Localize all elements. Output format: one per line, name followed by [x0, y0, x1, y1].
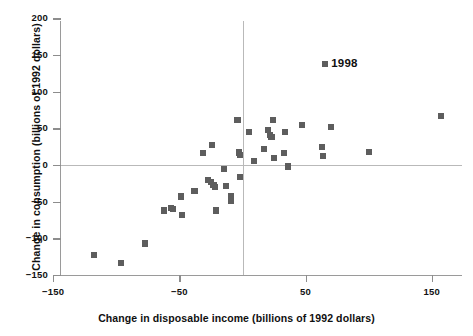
- x-tick-mark: [53, 275, 54, 282]
- data-point: [366, 149, 372, 155]
- x-tick-label: −50: [157, 286, 201, 297]
- data-point: [223, 183, 229, 189]
- data-point: [212, 184, 218, 190]
- data-point: [118, 260, 124, 266]
- data-point: [438, 113, 444, 119]
- data-point: [178, 193, 184, 199]
- data-point: [191, 188, 197, 194]
- data-point: [320, 153, 326, 159]
- x-tick-label: 150: [410, 286, 454, 297]
- data-point: [237, 152, 243, 158]
- data-point: [142, 240, 148, 246]
- legend-swatch-1998: [322, 61, 328, 67]
- data-point: [268, 134, 274, 140]
- data-point: [91, 252, 97, 258]
- gridline-y-zero: [60, 165, 462, 166]
- data-point: [328, 124, 334, 130]
- y-tick-mark: [53, 128, 61, 129]
- y-tick-label: 0: [8, 159, 48, 170]
- y-tick-mark: [53, 92, 61, 93]
- y-tick-label: 100: [8, 86, 48, 97]
- data-point: [237, 174, 243, 180]
- y-tick-label: 200: [8, 12, 48, 23]
- x-tick-label: 50: [284, 286, 328, 297]
- y-tick-mark: [53, 165, 61, 166]
- x-tick-label: −150: [31, 286, 75, 297]
- data-point: [270, 117, 276, 123]
- data-point: [285, 163, 291, 169]
- y-tick-label: −100: [8, 232, 48, 243]
- y-tick-mark: [53, 55, 61, 56]
- scatter-chart-figure: 200150100500−50−100−150 −150−5050150 199…: [0, 0, 473, 336]
- x-axis-line: [60, 275, 462, 276]
- y-axis-line: [60, 21, 61, 275]
- data-point: [261, 146, 267, 152]
- x-axis-title: Change in disposable income (billions of…: [0, 312, 473, 324]
- data-point: [200, 150, 206, 156]
- y-tick-mark: [53, 238, 61, 239]
- x-tick-mark: [432, 275, 433, 282]
- y-tick-label: −50: [8, 196, 48, 207]
- data-point: [228, 198, 234, 204]
- gridline-x-zero: [243, 21, 244, 275]
- data-point: [251, 158, 257, 164]
- data-point: [161, 207, 167, 213]
- data-point: [281, 150, 287, 156]
- data-point: [246, 129, 252, 135]
- data-point: [213, 207, 219, 213]
- data-point: [319, 144, 325, 150]
- y-tick-mark: [53, 202, 61, 203]
- data-point: [234, 117, 240, 123]
- x-tick-mark: [306, 275, 307, 282]
- data-point: [271, 155, 277, 161]
- y-axis-title: Change in consumption (billions of 1992 …: [30, 7, 42, 287]
- x-tick-mark: [179, 275, 180, 282]
- data-point: [299, 122, 305, 128]
- data-point: [179, 212, 185, 218]
- y-tick-label: 50: [8, 122, 48, 133]
- data-point: [221, 166, 227, 172]
- legend: 1998: [322, 58, 358, 70]
- data-point: [282, 129, 288, 135]
- legend-label-1998: 1998: [331, 58, 357, 70]
- y-tick-label: −150: [8, 269, 48, 280]
- y-tick-mark: [53, 18, 61, 19]
- data-point: [209, 142, 215, 148]
- data-point: [170, 206, 176, 212]
- y-tick-label: 150: [8, 49, 48, 60]
